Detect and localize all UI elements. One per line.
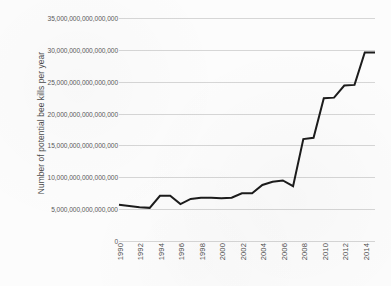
- data-series-line: [119, 18, 375, 241]
- x-tick-label: 2008: [300, 243, 309, 260]
- y-tick-label: 20,000,000,000,000,000: [36, 110, 118, 117]
- gridline: [119, 241, 375, 242]
- plot-area: [119, 18, 375, 241]
- x-axis-tick-labels: 1990199219941996199820002002200420062008…: [119, 243, 375, 286]
- y-tick-label: 5,000,000,000,000,000: [36, 206, 118, 213]
- x-tick-label: 1998: [198, 243, 207, 260]
- x-tick-label: 1992: [136, 243, 145, 260]
- x-tick-label: 2004: [259, 243, 268, 260]
- y-tick-label: 30,000,000,000,000,000: [36, 46, 118, 53]
- x-tick-label: 2012: [341, 243, 350, 260]
- y-axis-tick-labels: 05,000,000,000,000,00010,000,000,000,000…: [36, 0, 118, 286]
- x-tick-label: 2010: [321, 243, 330, 260]
- x-tick-label: 2014: [362, 243, 371, 260]
- x-tick-label: 2000: [218, 243, 227, 260]
- x-tick-label: 2006: [280, 243, 289, 260]
- x-tick-label: 1994: [157, 243, 166, 260]
- y-tick-label: 25,000,000,000,000,000: [36, 78, 118, 85]
- line-chart: Number of potential bee kills per year 0…: [0, 0, 391, 286]
- y-tick-label: 10,000,000,000,000,000: [36, 174, 118, 181]
- y-tick-label: 0: [36, 238, 118, 245]
- y-tick-label: 35,000,000,000,000,000: [36, 15, 118, 22]
- x-tick-label: 1990: [116, 243, 125, 260]
- x-tick-label: 2002: [239, 243, 248, 260]
- x-tick-label: 1996: [177, 243, 186, 260]
- y-tick-label: 15,000,000,000,000,000: [36, 142, 118, 149]
